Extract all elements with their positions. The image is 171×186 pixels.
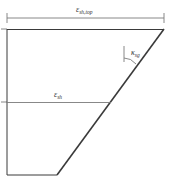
- strain-slope-line: [57, 29, 164, 175]
- top-dimension: εsh,top: [7, 5, 164, 23]
- angle-arc: [124, 58, 136, 64]
- strain-profile: [7, 29, 164, 175]
- mid-strain: εsh: [7, 90, 111, 103]
- strain-diagram: εsh,top εsh κsg: [0, 0, 171, 186]
- mid-strain-label: εsh: [54, 90, 62, 100]
- curvature-label: κsg: [131, 48, 140, 58]
- curvature-angle: κsg: [124, 46, 140, 64]
- top-strain-label: εsh,top: [76, 5, 93, 15]
